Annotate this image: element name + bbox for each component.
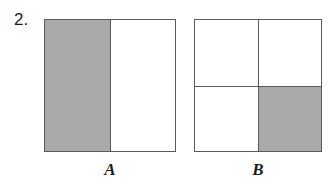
figure-a-vertical-divider [110,20,111,151]
question-number: 2. [14,10,28,30]
figure-a-cell-left-half [45,20,110,151]
figure-b-cell-bottom-left [195,86,258,152]
figure-b-cell-bottom-right [258,86,321,152]
worksheet-figure-page: 2. A B [0,0,335,188]
figure-a-square [44,19,176,152]
figure-b-horizontal-divider [195,86,321,87]
figure-b-cell-top-right [258,20,321,86]
figure-b-cell-top-left [195,20,258,86]
figure-b-square [194,19,322,152]
figure-b-caption: B [238,160,278,180]
figure-a-caption: A [90,160,130,180]
figure-a-cell-right-half [110,20,175,151]
